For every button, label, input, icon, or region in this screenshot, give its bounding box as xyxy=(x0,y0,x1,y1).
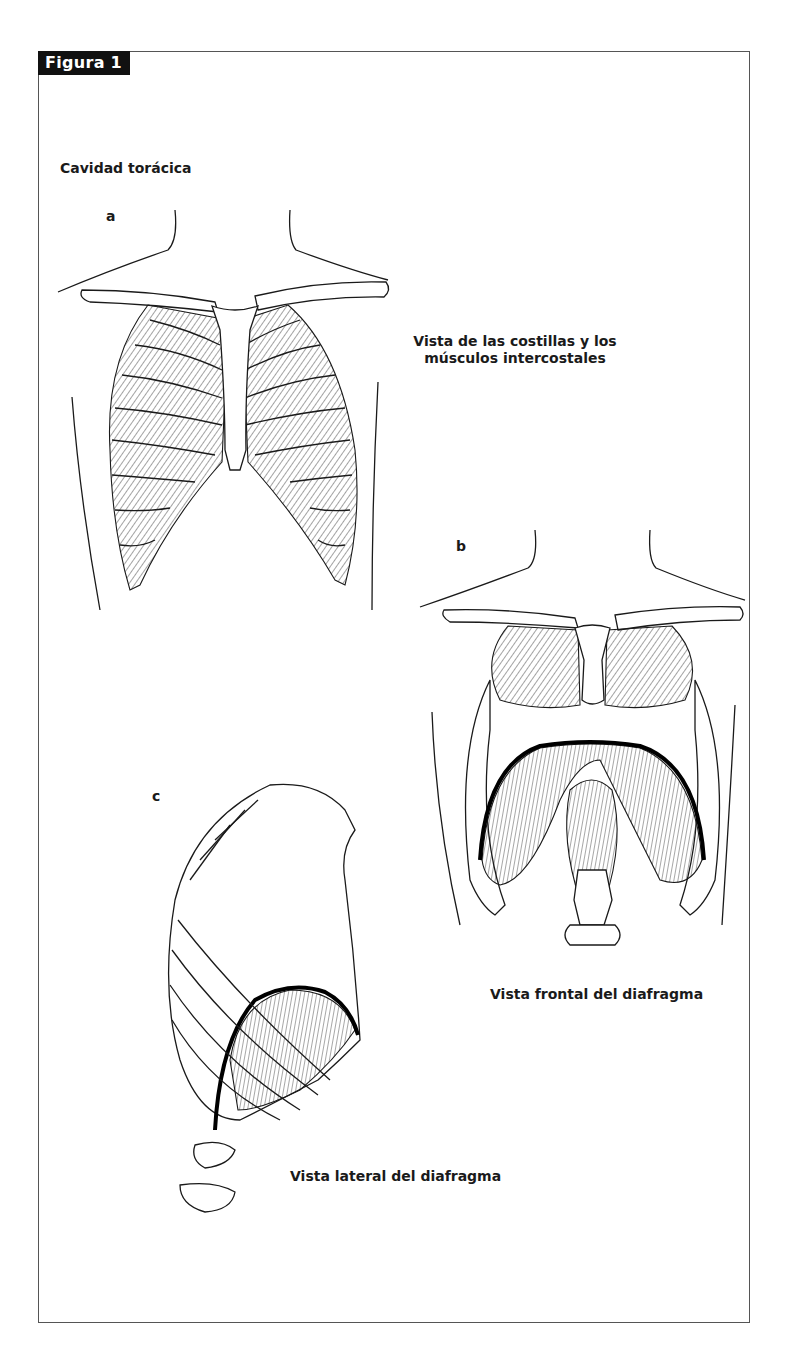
panel-c-letter: c xyxy=(152,788,160,804)
panel-b-letter: b xyxy=(456,538,466,554)
panel-c-caption: Vista lateral del diafragma xyxy=(290,1168,501,1185)
panel-a-caption-line2: músculos intercostales xyxy=(424,350,606,366)
panel-a-caption-line1: Vista de las costillas y los xyxy=(413,333,616,349)
panel-a-caption: Vista de las costillas y los músculos in… xyxy=(410,333,620,367)
ribcage-front-illustration xyxy=(0,0,792,1370)
panel-b-caption: Vista frontal del diafragma xyxy=(490,986,703,1003)
